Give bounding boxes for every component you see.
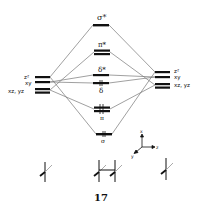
label-delta-star: δ*: [98, 66, 106, 74]
right-label-xz-yz: xz, yz: [174, 82, 190, 89]
level-delta-star: [93, 74, 109, 76]
right-fragment-levels: [155, 71, 170, 89]
left-level-xz-yz-b: [35, 92, 50, 94]
coordinate-axes: [134, 134, 155, 154]
sketch-dimer: [94, 160, 122, 182]
right-level-xy: [155, 76, 170, 78]
left-level-xz-yz-a: [35, 88, 50, 90]
axis-label-z: z: [156, 145, 159, 150]
level-sigma-star: [93, 24, 109, 26]
right-level-xz-yz-a: [155, 83, 170, 85]
sketch-right-fragment: [161, 158, 173, 180]
left-fragment-levels: [35, 76, 50, 94]
level-pi-star-b: [94, 53, 110, 55]
axis-label-y: y: [131, 154, 134, 159]
figure-number: 17: [94, 192, 108, 203]
level-pi-b: [94, 110, 110, 112]
structure-sketches: [40, 158, 173, 182]
left-label-xz-yz: xz, yz: [8, 88, 24, 95]
axis-label-x: x: [140, 129, 143, 134]
right-level-xz-yz-b: [155, 87, 170, 89]
right-level-z2: [155, 71, 170, 73]
right-label-xy: xy: [174, 74, 181, 81]
level-sigma: [96, 133, 112, 135]
level-pi-a: [94, 107, 110, 109]
label-pi: π: [100, 114, 104, 121]
label-sigma-star: σ*: [97, 13, 106, 22]
label-sigma: σ: [101, 137, 105, 144]
left-level-xy: [35, 81, 50, 83]
label-delta: δ: [99, 87, 103, 95]
left-level-z2: [35, 76, 50, 78]
left-label-xy: xy: [25, 80, 32, 87]
sketch-left-fragment: [40, 162, 52, 182]
level-delta: [93, 82, 109, 84]
label-pi-star: π*: [98, 41, 107, 49]
level-pi-star-a: [94, 50, 110, 52]
mo-diagram: σ* π* δ* δ π σ z² xy xz, yz z² xy xz, yz…: [0, 0, 203, 206]
